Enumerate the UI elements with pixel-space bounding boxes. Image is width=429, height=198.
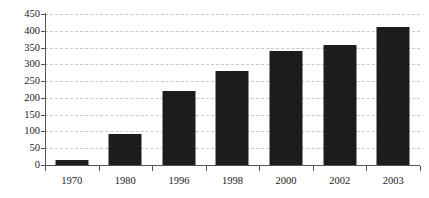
bar	[323, 45, 356, 165]
x-axis-tick-label: 2003	[363, 176, 423, 187]
x-axis-tick	[45, 166, 46, 171]
bar	[109, 134, 142, 165]
x-axis-tick	[366, 166, 367, 171]
bar-slot	[259, 14, 313, 165]
bar	[216, 71, 249, 165]
x-axis-tick-label: 2002	[310, 176, 370, 187]
x-axis-baseline	[45, 165, 420, 166]
x-axis-tick-label: 1996	[149, 176, 209, 187]
x-axis-tick-label: 1970	[42, 176, 102, 187]
y-axis-tick-label: 100	[6, 126, 40, 137]
bar-chart: 050100150200250300350400450 197019801996…	[0, 0, 429, 198]
bar-slot	[313, 14, 367, 165]
y-axis-tick-label: 0	[6, 160, 40, 171]
x-axis-tick	[259, 166, 260, 171]
y-axis-tick-label: 350	[6, 42, 40, 53]
bar	[55, 160, 88, 165]
y-axis-tick-label: 250	[6, 76, 40, 87]
bar-slot	[45, 14, 99, 165]
x-axis-tick-label: 2000	[256, 176, 316, 187]
x-axis-tick-label: 1980	[95, 176, 155, 187]
plot-area	[45, 14, 420, 165]
bar	[270, 51, 303, 165]
y-axis-tick-label: 50	[6, 143, 40, 154]
x-axis-tick-label: 1998	[203, 176, 263, 187]
bar	[377, 27, 410, 165]
y-axis-tick-label: 400	[6, 26, 40, 37]
x-axis-tick	[313, 166, 314, 171]
x-axis-tick	[152, 166, 153, 171]
bar-slot	[206, 14, 260, 165]
y-axis-tick-label: 300	[6, 59, 40, 70]
y-axis-tick-label: 450	[6, 9, 40, 20]
bar	[162, 91, 195, 165]
bar-slot	[152, 14, 206, 165]
y-axis-tick-label: 150	[6, 109, 40, 120]
x-axis-tick	[99, 166, 100, 171]
x-axis-tick	[206, 166, 207, 171]
bar-slot	[99, 14, 153, 165]
bar-slot	[366, 14, 420, 165]
y-axis-tick-label: 200	[6, 93, 40, 104]
x-axis-tick	[420, 166, 421, 171]
